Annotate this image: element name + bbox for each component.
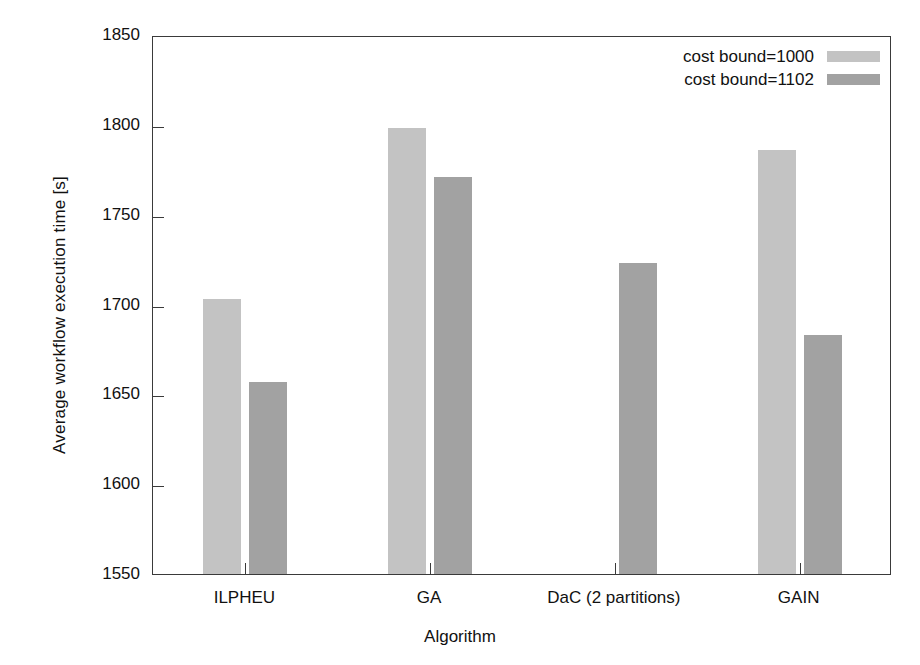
- x-axis-tick-label: DaC (2 partitions): [547, 588, 680, 608]
- plot-area: cost bound=1000 cost bound=1102: [152, 36, 891, 575]
- bar: [619, 263, 657, 574]
- y-axis-tick-label: 1800: [20, 115, 140, 135]
- x-axis-title: Algorithm: [0, 627, 920, 647]
- bar: [434, 177, 472, 574]
- x-axis-tick: [800, 563, 801, 574]
- y-axis-tick-label: 1700: [20, 295, 140, 315]
- y-axis-tick-label: 1650: [20, 384, 140, 404]
- y-axis-tick-label: 1750: [20, 205, 140, 225]
- y-axis-tick: [153, 486, 164, 487]
- y-axis-title: Average workflow execution time [s]: [50, 95, 70, 535]
- x-axis-tick-label: ILPHEU: [214, 588, 275, 608]
- y-axis-tick: [153, 396, 164, 397]
- legend-swatch-1: [827, 74, 880, 85]
- y-axis-tick: [153, 217, 164, 218]
- legend-swatch-0: [827, 51, 880, 62]
- legend-label-1: cost bound=1102: [684, 70, 814, 90]
- bar: [388, 128, 426, 574]
- x-axis-tick: [430, 563, 431, 574]
- plot-inner: [153, 37, 890, 574]
- x-axis-tick: [615, 563, 616, 574]
- bar: [249, 382, 287, 574]
- y-axis-tick: [153, 307, 164, 308]
- bar: [758, 150, 796, 574]
- legend-item-0: cost bound=1000: [683, 45, 880, 68]
- y-axis-tick-label: 1850: [20, 25, 140, 45]
- legend-item-1: cost bound=1102: [683, 68, 880, 91]
- bar: [203, 299, 241, 574]
- x-axis-tick-label: GA: [417, 588, 442, 608]
- bar: [804, 335, 842, 574]
- x-axis-tick-label: GAIN: [778, 588, 820, 608]
- y-axis-tick-label: 1550: [20, 564, 140, 584]
- chart-legend: cost bound=1000 cost bound=1102: [683, 45, 880, 91]
- y-axis-tick: [153, 127, 164, 128]
- chart-figure: Average workflow execution time [s] cost…: [0, 0, 920, 665]
- x-axis-tick: [245, 563, 246, 574]
- y-axis-tick-label: 1600: [20, 474, 140, 494]
- legend-label-0: cost bound=1000: [683, 47, 814, 67]
